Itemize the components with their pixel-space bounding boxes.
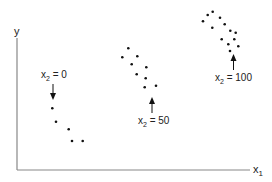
data-point [202,20,205,23]
data-point [55,120,58,123]
data-point [234,31,237,34]
annotation-x2-50: x2 = 50 [138,97,170,128]
data-point [219,16,222,19]
data-point [220,38,223,41]
data-point [51,107,54,110]
arrowhead-up-icon [231,54,237,61]
x-axis-label: x1 [253,163,264,178]
data-point [211,26,214,29]
data-point [145,66,148,69]
data-point [127,47,130,50]
data-point [227,43,230,46]
series-1 [121,47,157,89]
data-point [71,140,74,143]
series-0 [51,107,84,142]
data-point [136,55,139,58]
data-point [233,38,236,41]
svg-text:x2 = 0: x2 = 0 [41,69,67,82]
data-point [81,140,84,143]
data-point [223,23,226,26]
annotation-x2-100: x2 = 100 [215,54,252,85]
series-2 [202,10,240,52]
data-point [155,84,158,87]
data-point [144,77,147,80]
arrowhead-up-icon [149,97,155,104]
svg-text:x2 = 100: x2 = 100 [215,72,252,85]
data-point [229,50,232,53]
annotation-x2-0: x2 = 0 [41,69,67,100]
svg-text:x2 = 50: x2 = 50 [138,115,170,128]
data-point [67,128,70,131]
y-axis-label: y [14,25,20,37]
data-point [229,29,232,32]
data-point [143,86,146,89]
data-point [206,14,209,17]
data-point [211,10,214,13]
scatter-chart: y x1 x2 = 0 x2 = 50 x2 = 100 [0,0,272,182]
data-point [237,45,240,48]
data-point [135,73,138,76]
data-point [121,56,124,59]
arrowhead-down-icon [50,93,56,100]
data-point [130,63,133,66]
